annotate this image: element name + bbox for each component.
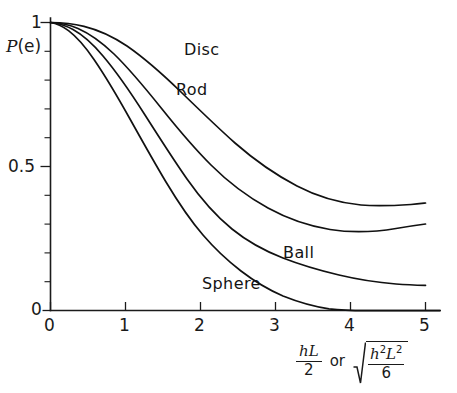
radicand-exp-L: 2 (396, 344, 402, 355)
y-axis-major-ticks (41, 23, 51, 311)
radicand-base-h: h (370, 345, 380, 363)
x-tick-label-1: 1 (119, 315, 130, 335)
fraction-numerator-hL: hL (296, 344, 322, 361)
x-tick-label-0: 0 (44, 315, 55, 335)
x-tick-label-3: 3 (269, 315, 280, 335)
fraction-hL-over-2: hL 2 (296, 344, 322, 379)
square-root-expression: h2L2 6 (353, 341, 408, 382)
y-axis-title-arg: (e) (17, 36, 41, 56)
curve-sphere-line (51, 23, 441, 311)
radicand-numerator: h2L2 (368, 344, 404, 364)
y-axis-title: P(e) (6, 36, 41, 56)
y-tick-label-1: 1 (31, 12, 42, 32)
x-tick-label-5: 5 (419, 315, 430, 335)
radicand-base-L: L (386, 345, 396, 363)
y-axis-title-symbol: P (6, 36, 17, 56)
y-tick-label-0: 0 (31, 299, 42, 319)
fraction-denominator-2: 2 (301, 362, 317, 379)
x-tick-label-2: 2 (194, 315, 205, 335)
curve-label-ball: Ball (283, 243, 314, 262)
curve-label-sphere: Sphere (202, 274, 261, 293)
radical-icon (353, 341, 366, 382)
y-tick-label-0-5: 0.5 (8, 156, 35, 176)
curve-label-disc: Disc (184, 40, 220, 59)
connector-or: or (322, 352, 353, 370)
curve-disc-line (51, 23, 426, 206)
radicand-denominator: 6 (379, 365, 393, 382)
curve-ball-line (51, 23, 426, 286)
curve-rod-line (51, 23, 426, 232)
radicand: h2L2 6 (366, 341, 408, 382)
form-factor-chart-figure: P(e) 1 0.5 0 0 1 2 3 4 5 Disc Rod Ball S… (0, 0, 457, 393)
x-tick-label-4: 4 (344, 315, 355, 335)
x-axis-ticks (51, 302, 426, 311)
x-axis-title: hL 2 or h2L2 6 (296, 341, 408, 382)
plot-canvas (0, 0, 457, 393)
curve-label-rod: Rod (176, 80, 208, 99)
